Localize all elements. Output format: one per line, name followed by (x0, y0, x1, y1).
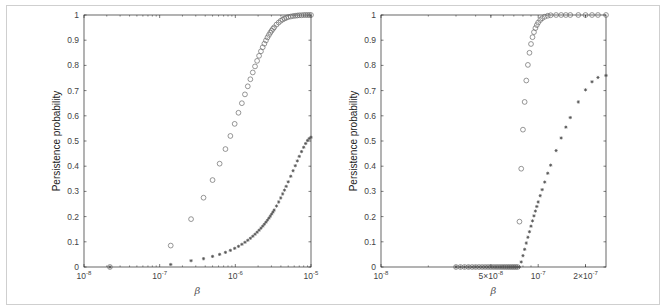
x-tick-label: 10-7 (531, 270, 546, 281)
data-point-star (240, 243, 243, 246)
y-tick-label: 0.8 (364, 60, 376, 70)
data-point-star (294, 164, 297, 167)
y-tick-label: 0.7 (364, 86, 376, 96)
y-tick-label: 1 (371, 10, 376, 20)
data-point-star (287, 180, 290, 183)
data-point-star (454, 265, 457, 268)
x-tick-label: 10-8 (77, 270, 92, 281)
chart-right: 00.10.20.30.40.50.60.70.80.9110-85×10-81… (348, 10, 608, 296)
data-point-star (169, 263, 172, 266)
y-tick-label: 0.5 (67, 136, 79, 146)
data-point-star (279, 196, 282, 199)
y-tick-label: 0.8 (67, 60, 79, 70)
plot-area (84, 15, 311, 267)
y-tick-label: 0.6 (67, 111, 79, 121)
x-tick-label: 10-6 (228, 270, 243, 281)
data-point-star (459, 265, 462, 268)
y-tick-label: 0.1 (364, 237, 376, 247)
y-tick-label: 1 (74, 10, 79, 20)
y-tick-label: 0.4 (364, 161, 376, 171)
x-tick-label: 10-7 (152, 270, 167, 281)
y-tick-label: 0.9 (364, 35, 376, 45)
data-point-star (296, 159, 299, 162)
data-point-star (569, 116, 572, 119)
data-point-star (302, 146, 305, 149)
data-point-star (467, 265, 470, 268)
data-point-star (474, 265, 477, 268)
data-point-star (471, 265, 474, 268)
y-tick-label: 0.2 (67, 212, 79, 222)
data-point-star (273, 208, 276, 211)
y-axis-label: Persistence probability (51, 91, 62, 192)
plot-area (381, 15, 606, 267)
data-point-star (486, 265, 489, 268)
data-point-star (304, 142, 307, 145)
y-tick-label: 0.3 (364, 186, 376, 196)
y-axis-label: Persistence probability (348, 91, 359, 192)
data-point-star (590, 80, 593, 83)
y-tick-label: 0.1 (67, 237, 79, 247)
data-point-star (529, 225, 532, 228)
data-point-star (275, 204, 278, 207)
data-point-star (546, 172, 549, 175)
data-point-star (539, 194, 542, 197)
data-point-star (577, 100, 580, 103)
data-point-star (291, 169, 294, 172)
y-tick-label: 0.4 (67, 161, 79, 171)
x-tick-label: 10-8 (374, 270, 389, 281)
data-point-star (596, 76, 599, 79)
chart-left: 00.10.20.30.40.50.60.70.80.9110-810-710-… (51, 10, 319, 296)
data-point-star (477, 265, 480, 268)
y-tick-label: 0.2 (364, 212, 376, 222)
data-point-star (481, 265, 484, 268)
x-axis-label: β (194, 285, 201, 296)
data-point-star (189, 259, 192, 262)
data-point-star (543, 180, 546, 183)
data-point-star (463, 265, 466, 268)
data-point-star (285, 185, 288, 188)
y-tick-label: 0.3 (67, 186, 79, 196)
data-point-star (604, 74, 607, 77)
data-point-star (298, 155, 301, 158)
data-point-star (484, 265, 487, 268)
x-tick-label: 10-5 (304, 270, 319, 281)
x-tick-label: 5×10-8 (479, 270, 504, 281)
y-tick-label: 0.5 (364, 136, 376, 146)
y-tick-label: 0.7 (67, 86, 79, 96)
data-point-star (537, 200, 540, 203)
data-point-star (233, 247, 236, 250)
data-point-star (218, 253, 221, 256)
figure: 00.10.20.30.40.50.60.70.80.9110-810-710-… (0, 0, 668, 308)
data-point-star (277, 200, 280, 203)
data-point-star (229, 249, 232, 252)
x-axis-label: β (490, 285, 497, 296)
data-point-star (520, 260, 523, 263)
data-point-star (521, 254, 524, 257)
y-tick-label: 0.6 (364, 111, 376, 121)
y-tick-label: 0.9 (67, 35, 79, 45)
x-tick-label: 2×10-7 (573, 270, 598, 281)
data-point-star (224, 251, 227, 254)
